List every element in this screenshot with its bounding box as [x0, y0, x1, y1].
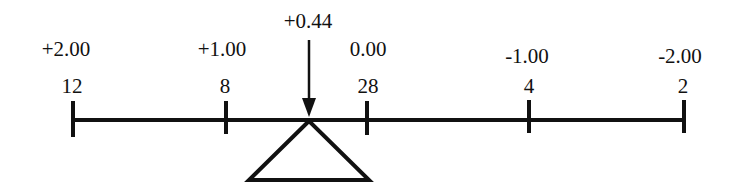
down-arrow-icon: [302, 40, 316, 117]
tick-value-label: -1.00: [505, 44, 549, 68]
tick-count-label: 2: [678, 74, 689, 98]
tick-value-label: -2.00: [658, 44, 702, 68]
balance-beam-diagram: +2.00 12 +1.00 8 0.00 28 -1.00 4 -2.00 2…: [0, 0, 737, 191]
fulcrum-value-label: +0.44: [284, 9, 333, 33]
tick-value-label: +2.00: [42, 37, 91, 61]
tick-value-label: 0.00: [350, 37, 387, 61]
tick-count-label: 4: [524, 74, 535, 98]
tick-count-label: 8: [220, 74, 231, 98]
tick-count-label: 12: [62, 74, 83, 98]
tick-value-label: +1.00: [198, 37, 247, 61]
triangle-fulcrum-icon: [249, 121, 369, 180]
tick-count-label: 28: [358, 74, 379, 98]
